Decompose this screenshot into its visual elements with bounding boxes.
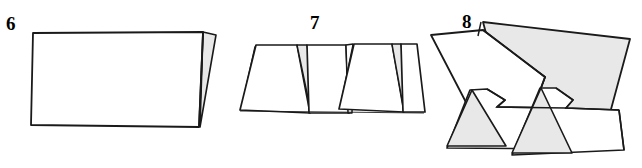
figure-6-main-panel	[31, 32, 203, 127]
figure-sheet: 6 7 8	[0, 0, 642, 168]
figures-canvas	[0, 0, 642, 168]
figure-7-pleat-4-face	[401, 44, 425, 112]
figure-label-6: 6	[6, 14, 16, 33]
figure-label-7: 7	[310, 13, 320, 32]
figure-label-8: 8	[462, 12, 472, 31]
figure-6-group	[31, 32, 216, 127]
figure-8-group	[431, 22, 630, 155]
figure-7-group	[240, 44, 425, 113]
